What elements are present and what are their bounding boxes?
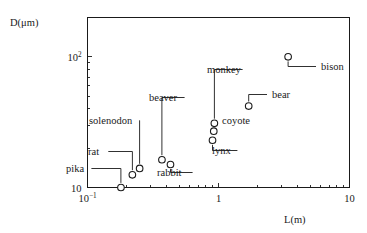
leader-rat	[108, 152, 132, 171]
x-tick-label: 1	[216, 193, 221, 204]
data-point-beaver	[159, 156, 166, 163]
scatter-plot-figure: pikaratsolenodonbeaverrabbitlynxcoyotemo…	[0, 0, 367, 233]
y-axis-title: D(μm)	[10, 17, 39, 29]
leader-monkey	[214, 70, 242, 119]
plot-axes-frame	[88, 18, 350, 188]
label-coyote: coyote	[222, 115, 250, 126]
y-tick-label: 10	[71, 183, 82, 194]
data-point-pika	[118, 184, 125, 191]
leader-pika	[91, 169, 121, 183]
label-monkey: monkey	[207, 64, 242, 75]
data-point-rat	[129, 172, 136, 179]
plot-canvas: pikaratsolenodonbeaverrabbitlynxcoyotemo…	[0, 0, 367, 233]
label-solenodon: solenodon	[89, 115, 133, 126]
data-point-bison	[285, 54, 292, 61]
data-point-lynx	[209, 137, 216, 144]
data-point-bear	[245, 103, 252, 110]
y-axis-ticks	[88, 18, 93, 188]
label-pika: pika	[66, 163, 84, 174]
label-rabbit: rabbit	[157, 167, 182, 178]
y-tick-label: 102	[67, 51, 82, 63]
label-bear: bear	[272, 89, 291, 100]
label-rat: rat	[88, 146, 99, 157]
label-beaver: beaver	[149, 92, 177, 103]
data-point-labels: pikaratsolenodonbeaverrabbitlynxcoyotemo…	[66, 61, 345, 178]
data-point-monkey	[211, 120, 218, 127]
leader-bison	[288, 61, 316, 66]
x-axis-ticks	[88, 183, 350, 188]
label-bison: bison	[321, 61, 345, 72]
data-point-markers	[118, 54, 292, 191]
x-tick-label: 10	[344, 193, 355, 204]
label-lynx: lynx	[212, 145, 231, 156]
leader-bear	[249, 95, 267, 102]
data-point-coyote	[210, 128, 217, 135]
data-point-solenodon	[136, 165, 143, 172]
x-axis-title: L(m)	[284, 214, 306, 226]
leader-beaver	[162, 98, 185, 156]
